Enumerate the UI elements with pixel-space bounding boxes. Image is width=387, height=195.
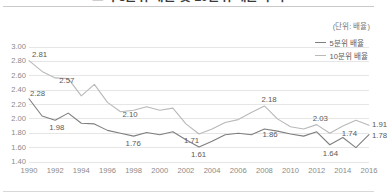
x-axis-tick-label: 1990 [15,166,43,175]
x-axis-tick-label: 2016 [355,166,383,175]
x-axis-tick-label: 1996 [94,166,122,175]
x-axis-tick-label: 2000 [146,166,174,175]
y-axis-tick-label: 3.00 [1,42,26,51]
data-point-label: 1.78 [372,131,387,140]
data-point-label: 1.61 [191,150,206,159]
x-axis-tick-label: 2010 [277,166,305,175]
x-axis-tick-label: 2008 [250,166,278,175]
data-point-label: 1.98 [49,123,64,132]
x-axis-tick-label: 1992 [41,166,69,175]
x-axis-tick-label: 2014 [329,166,357,175]
data-point-label: 1.71 [184,136,199,145]
x-axis-tick-label: 2002 [172,166,200,175]
data-point-label: 1.76 [126,139,141,148]
data-point-label: 2.18 [261,95,276,104]
y-axis-tick-label: 1.80 [1,128,26,137]
data-point-label: 1.91 [372,120,387,129]
footer-divider [3,191,374,192]
x-axis-tick-label: 2004 [198,166,226,175]
x-axis-tick-label: 2012 [303,166,331,175]
y-axis-tick-label: 2.40 [1,85,26,94]
data-point-label: 2.03 [313,114,328,123]
data-point-label: 2.81 [32,50,47,59]
data-point-label: 1.74 [342,129,357,138]
data-point-label: 2.10 [123,110,138,119]
data-point-label: 1.86 [262,130,277,139]
x-axis-tick-label: 2006 [224,166,252,175]
data-point-label: 1.64 [323,149,338,158]
x-axis-tick-label: 1998 [120,166,148,175]
x-axis-tick-label: 1994 [67,166,95,175]
y-axis-tick-label: 2.80 [1,56,26,65]
y-axis-tick-label: 2.00 [1,114,26,123]
y-axis-tick-label: 2.20 [1,100,26,109]
y-axis-tick-label: 2.60 [1,71,26,80]
series-line [29,61,369,134]
y-axis-tick-label: 1.60 [1,143,26,152]
y-axis-tick-label: 1.40 [1,157,26,166]
gridlines [29,47,369,162]
data-point-label: 2.28 [30,89,45,98]
data-point-label: 2.57 [59,76,74,85]
